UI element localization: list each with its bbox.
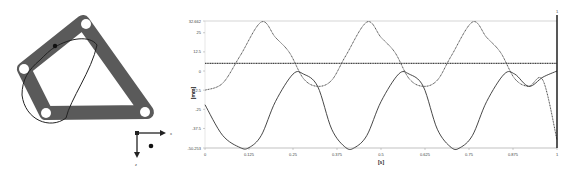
y-tick-label: -37.5	[192, 126, 202, 131]
hole	[81, 19, 91, 29]
y-axis-title: [mm]	[190, 87, 196, 100]
arrow-x-icon	[160, 130, 166, 136]
hole	[140, 107, 150, 117]
coordinate-axes: x z	[134, 130, 172, 167]
y-tick-label: -25	[195, 107, 202, 112]
y-tick-label: 32.662	[189, 19, 202, 24]
x-tick-label: 0.375	[332, 152, 343, 157]
x-tick-label: 0.5	[378, 152, 384, 157]
hole	[19, 64, 29, 74]
z-axis-label: z	[135, 162, 137, 167]
x-tick-label: 0.25	[289, 152, 298, 157]
cursor-label: 1	[556, 9, 559, 14]
y-tick-label: 12.5	[193, 49, 202, 54]
y-tick-label: -50.253	[187, 146, 201, 151]
chart-series: 1	[205, 9, 559, 150]
triangular-frame	[19, 19, 150, 118]
x-tick-label: 1	[556, 152, 559, 157]
chart-axes: 32.6622512.50-12.5-25-37.5-50.25300.1250…	[187, 19, 558, 158]
origin-dot	[149, 144, 154, 149]
x-axis-title: [s]	[378, 159, 384, 165]
displacement-chart: 32.6622512.50-12.5-25-37.5-50.25300.1250…	[180, 0, 576, 176]
x-tick-label: 0.125	[244, 152, 255, 157]
x-axis-label: x	[170, 131, 172, 136]
arrow-z-icon	[134, 152, 140, 158]
x-tick-label: 0.625	[420, 152, 431, 157]
y-tick-label: 0	[199, 69, 202, 74]
mechanism-diagram: x z	[0, 0, 190, 176]
x-tick-label: 0.75	[465, 152, 474, 157]
series-displacement-1	[205, 22, 557, 140]
tracked-point	[53, 44, 57, 48]
x-tick-label: 0	[204, 152, 207, 157]
series-displacement-2	[205, 71, 557, 150]
hole	[41, 108, 51, 118]
y-tick-label: 25	[197, 30, 202, 35]
x-tick-label: 0.875	[508, 152, 519, 157]
